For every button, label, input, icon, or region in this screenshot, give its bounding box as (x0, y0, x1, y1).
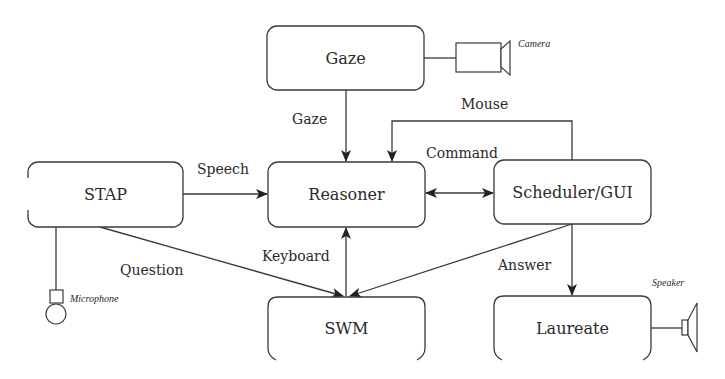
node-stap: STAP (28, 162, 183, 227)
node-scheduler-gui: Scheduler/GUI (494, 160, 651, 224)
edge-label-speech: Speech (197, 161, 249, 177)
edge-label-gaze: Gaze (292, 111, 327, 127)
node-gaze: Gaze (267, 26, 424, 90)
camera-icon (424, 41, 510, 75)
node-label: SWM (325, 319, 369, 338)
edge-label-command: Command (426, 145, 498, 161)
node-label: Laureate (536, 319, 609, 338)
edge-label-question: Question (120, 262, 184, 278)
node-laureate: Laureate (494, 296, 651, 360)
microphone-label: Microphone (69, 293, 119, 304)
system-architecture-diagram: Gaze Speech Mouse Command Keyboard Quest… (0, 0, 725, 379)
node-label: Scheduler/GUI (512, 183, 632, 202)
edge-label-answer: Answer (497, 257, 552, 273)
node-label: Gaze (325, 49, 365, 68)
speaker-label: Speaker (652, 277, 684, 288)
camera-label: Camera (518, 38, 550, 49)
edge-label-keyboard: Keyboard (262, 248, 330, 264)
speaker-icon (651, 303, 697, 352)
edge-label-mouse: Mouse (461, 96, 508, 112)
node-reasoner: Reasoner (268, 162, 425, 227)
node-swm: SWM (268, 297, 425, 360)
microphone-icon (46, 227, 66, 324)
node-label: STAP (84, 185, 127, 204)
node-label: Reasoner (308, 185, 385, 204)
